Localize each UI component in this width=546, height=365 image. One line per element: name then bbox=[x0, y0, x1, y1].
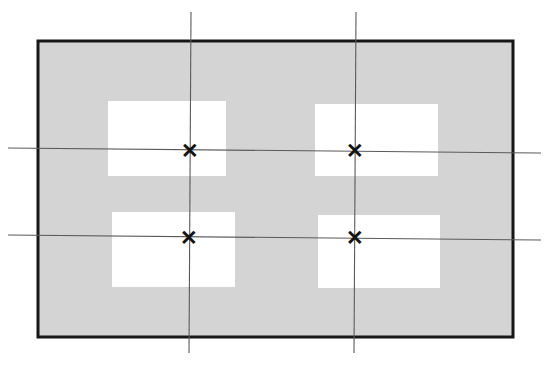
window-top-left bbox=[108, 101, 226, 176]
window-bottom-left bbox=[112, 212, 235, 287]
window-top-right bbox=[315, 104, 438, 176]
marker-top-left: ✕ bbox=[181, 139, 199, 162]
window-bottom-right bbox=[318, 215, 440, 288]
diagram-svg: ✕ ✕ ✕ ✕ bbox=[0, 0, 546, 365]
marker-top-right: ✕ bbox=[346, 139, 364, 162]
marker-bottom-left: ✕ bbox=[180, 226, 198, 249]
marker-bottom-right: ✕ bbox=[346, 226, 364, 249]
outer-plate bbox=[38, 41, 513, 337]
diagram-canvas: ✕ ✕ ✕ ✕ bbox=[0, 0, 546, 365]
